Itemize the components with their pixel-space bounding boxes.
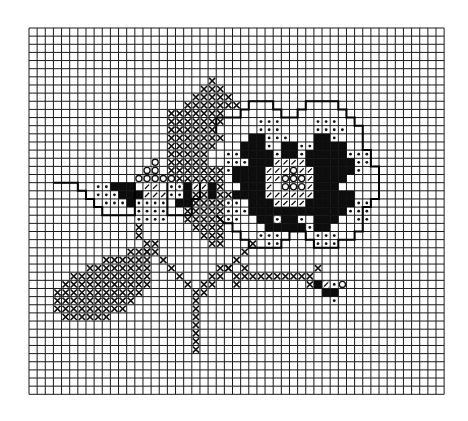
cross-stitch-chart bbox=[0, 0, 468, 421]
